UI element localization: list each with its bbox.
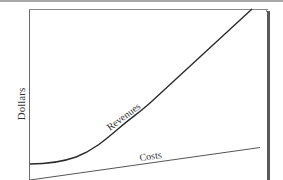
chart-plot: Revenues Costs [0,0,283,180]
right-border-shadow [267,11,270,180]
revenues-line [30,9,252,164]
y-axis-label: Dollars [15,88,27,120]
revenues-label: Revenues [105,100,143,132]
costs-label: Costs [139,149,163,163]
